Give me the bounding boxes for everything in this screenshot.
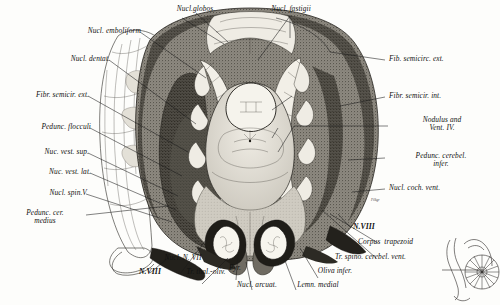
label-pedunc-flocculi: Pedunc. flocculi: [0, 123, 91, 131]
label-nuc-vest-lat: Nuc. vest. lat.: [0, 168, 91, 176]
label-pyr: Pyr.: [218, 264, 252, 272]
label-nucl-spin-v: Nucl. spin.V: [0, 189, 87, 197]
label-nuc-vest-sup: Nuc. vest. sup.: [0, 148, 89, 156]
label-lemn-medial: Lemn. medial: [278, 281, 358, 289]
label-fibr-semicir-int: Fibr. semicir. int.: [389, 92, 500, 100]
label-nucl-dentat: Nucl. dentat.: [0, 55, 110, 63]
label-n-viii-right: N.VIII: [353, 223, 403, 232]
label-oliva-infer: Oliva infer.: [296, 267, 374, 275]
label-nucl-globos: Nucl.globos.: [150, 5, 242, 13]
label-pedunc-cer-medius: Pedunc. cer. medius: [0, 209, 90, 226]
label-nucl-fastigii: Nucl. fastigii: [243, 5, 339, 13]
label-nucl-coch-vent: Nucl. coch. vent.: [389, 184, 499, 192]
label-nodulus-vent-iv: Nodulus and Vent. IV.: [392, 116, 492, 133]
label-tr-spino-cerebel-vent: Tr. spino. cerebel. vent.: [335, 253, 495, 261]
label-nucl-n-vii: Nucl. N. VII: [140, 254, 226, 262]
label-corpus-trapezoid: Corpus trapezoid: [358, 238, 488, 246]
label-nucl-emboliform: Nucl. emboliform: [0, 27, 141, 35]
label-fib-semicirc-ext: Fib. semicirc. ext.: [389, 55, 500, 63]
label-fibr-semicir-ext: Fibr. semicir. ext.: [0, 91, 89, 99]
anatomical-plate: Filkgr: [0, 0, 500, 305]
label-pedunc-cerebel-infer: Pedunc. cerebel. infer.: [389, 152, 493, 169]
